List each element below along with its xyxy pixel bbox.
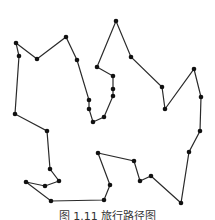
city-point [111,74,116,79]
city-point [129,55,134,60]
city-point [102,198,107,203]
city-point [14,41,19,46]
city-point [95,65,100,70]
city-point [87,107,92,112]
city-point [57,179,62,184]
city-point [17,54,22,59]
city-point [13,112,18,117]
city-point [187,150,192,155]
city-point [179,201,184,206]
city-point [96,151,101,156]
city-point [91,120,96,125]
city-point [108,183,113,188]
city-point [114,19,119,24]
city-point [75,58,80,63]
city-point [192,67,197,72]
city-point [163,107,168,112]
city-point [43,184,48,189]
city-point [102,115,107,120]
city-point [199,95,204,100]
city-point [138,179,143,184]
city-point [198,129,203,134]
city-point [132,159,137,164]
tour-route-line [15,21,201,203]
city-point [111,94,116,99]
city-point [24,180,29,185]
city-point [87,98,92,103]
city-point [45,129,50,134]
city-point [49,199,54,204]
city-point [35,57,40,62]
tour-path-diagram [0,0,215,220]
city-point [48,167,53,172]
city-point [111,87,116,92]
city-point [160,85,165,90]
city-points [13,19,204,206]
city-point [64,35,69,40]
city-point [149,174,154,179]
figure-caption: 图 1.11 旅行路径图 [0,211,215,220]
